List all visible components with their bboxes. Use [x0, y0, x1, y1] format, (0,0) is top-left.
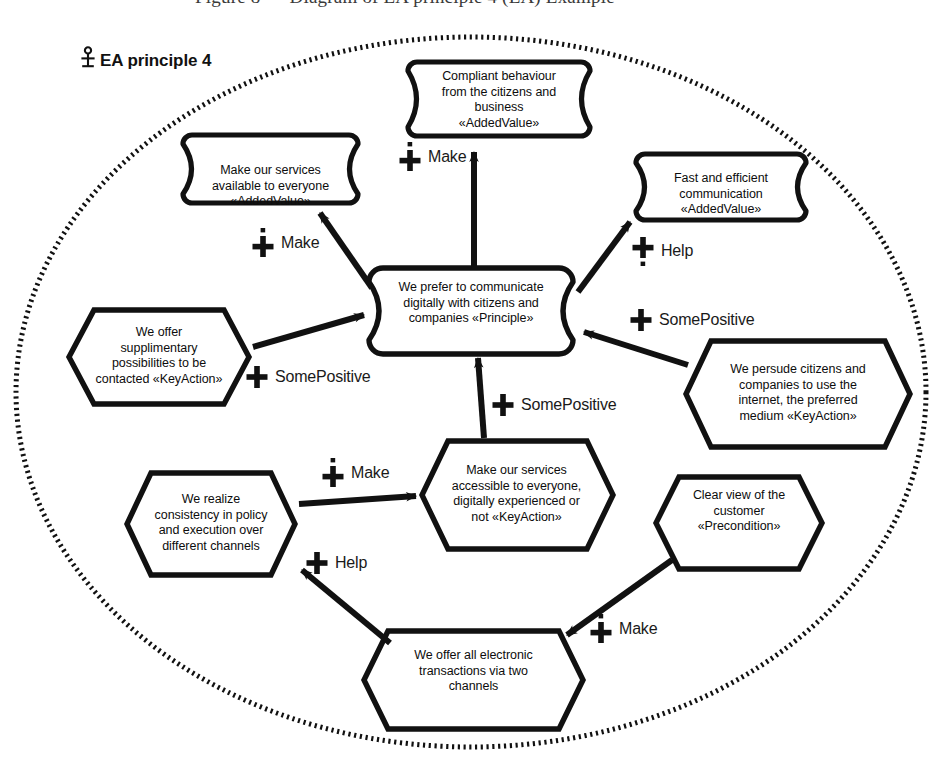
relation-label-make-accessible: Make	[322, 458, 389, 488]
node-consistency-policy-execution[interactable]	[127, 473, 295, 575]
diagram-canvas: Figure 8 — Diagram of EA principle 4 (EA…	[0, 0, 943, 767]
relation-label-somepositive-accessible: SomePositive	[492, 390, 616, 420]
connector-somepositive-persude	[584, 332, 688, 365]
node-persude-citizens-internet[interactable]	[686, 341, 910, 447]
relation-label-somepositive-supplimentary: SomePositive	[246, 362, 370, 392]
relation-label-make-compliant: Make	[399, 142, 466, 172]
plus-icon	[306, 548, 328, 578]
relation-text: Make	[428, 148, 466, 166]
node-supplimentary-possibilities[interactable]	[69, 310, 249, 404]
relation-text: SomePositive	[521, 396, 616, 414]
connector-somepositive-accessible	[478, 358, 484, 438]
connector-make-available	[320, 213, 372, 288]
relation-text: Make	[619, 620, 657, 638]
caption-label: EA principle 4	[100, 52, 211, 69]
node-electronic-transactions-two-channels[interactable]	[364, 631, 583, 729]
relation-text: Help	[661, 242, 693, 260]
connector-help-communication	[578, 222, 630, 292]
node-make-services-available[interactable]	[183, 135, 358, 203]
relation-text: Help	[335, 554, 367, 572]
connector-make-accessible	[299, 496, 416, 504]
plus-dot-above-icon	[252, 228, 274, 258]
connector-somepositive-supplimentary	[253, 315, 364, 347]
principle-anchor-icon	[78, 46, 98, 72]
plus-icon	[630, 305, 652, 335]
diagram-graphics	[0, 0, 943, 767]
plus-icon	[492, 390, 514, 420]
plus-dot-above-icon	[322, 458, 344, 488]
relation-label-somepositive-persude: SomePositive	[630, 305, 754, 335]
relation-label-make-transactions: Make	[590, 614, 657, 644]
relation-label-help-consistency: Help	[306, 548, 367, 578]
node-fast-efficient-communication[interactable]	[636, 154, 806, 220]
plus-dot-below-icon	[632, 236, 654, 266]
relation-text: Make	[281, 234, 319, 252]
relation-text: SomePositive	[659, 311, 754, 329]
caption: EA principle 4	[78, 46, 211, 69]
node-prefer-digital-communication[interactable]	[369, 268, 573, 354]
relation-label-make-available: Make	[252, 228, 319, 258]
relation-text: Make	[351, 464, 389, 482]
plus-dot-above-icon	[399, 142, 421, 172]
node-compliant-behaviour[interactable]	[408, 62, 590, 136]
relation-label-help-communication: Help	[632, 236, 693, 266]
relation-text: SomePositive	[275, 368, 370, 386]
node-services-accessible-everyone[interactable]	[422, 441, 613, 549]
node-clear-view-customer[interactable]	[656, 477, 822, 569]
plus-icon	[246, 362, 268, 392]
plus-dot-above-icon	[590, 614, 612, 644]
connector-help-consistency	[302, 570, 390, 643]
